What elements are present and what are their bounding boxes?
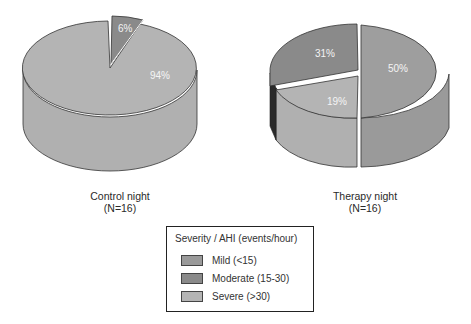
legend-label-severe: Severe (>30) — [212, 291, 270, 302]
legend-title: Severity / AHI (events/hour) — [175, 233, 297, 244]
legend-swatch-moderate — [181, 273, 203, 284]
control-severe-slice — [22, 21, 196, 115]
legend: Severity / AHI (events/hour) Mild (<15) … — [166, 226, 314, 312]
therapy-mild-pct: 50% — [388, 63, 408, 74]
legend-item-mild: Mild (<15) — [181, 253, 257, 267]
control-night-n: (N=16) — [60, 202, 180, 214]
control-moderate-pct: 6% — [118, 23, 133, 34]
therapy-night-label: Therapy night (N=16) — [300, 190, 430, 214]
legend-item-moderate: Moderate (15-30) — [181, 271, 289, 285]
therapy-night-pie: 31% 50% 19% — [270, 24, 449, 167]
legend-label-moderate: Moderate (15-30) — [212, 273, 289, 284]
therapy-moderate-pct: 31% — [315, 48, 335, 59]
pie-charts-canvas: 6% 94% 31% 50% 19% — [0, 0, 471, 200]
control-night-label: Control night (N=16) — [60, 190, 180, 214]
legend-item-severe: Severe (>30) — [181, 289, 270, 303]
therapy-severe-pct: 19% — [327, 96, 347, 107]
legend-swatch-severe — [181, 291, 203, 302]
legend-label-mild: Mild (<15) — [212, 255, 257, 266]
control-severe-pct: 94% — [150, 70, 170, 81]
therapy-moderate-slice — [270, 24, 358, 86]
control-night-title: Control night — [60, 190, 180, 202]
control-night-pie: 6% 94% — [22, 16, 197, 171]
therapy-night-n: (N=16) — [300, 202, 430, 214]
therapy-night-title: Therapy night — [300, 190, 430, 202]
legend-swatch-mild — [181, 255, 203, 266]
